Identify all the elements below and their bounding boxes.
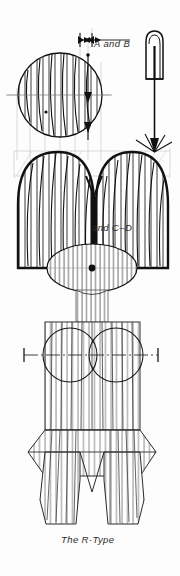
- technical-drawing-canvas: [0, 0, 180, 576]
- neck: [76, 290, 108, 322]
- body: [45, 322, 140, 430]
- annotation-c-and-d: and C–D: [92, 222, 132, 233]
- annotation-a-and-b: A and B: [94, 38, 130, 49]
- figure-root: A and B and C–D The R-Type: [0, 0, 180, 576]
- mid-ellipse: [47, 244, 137, 292]
- figure-caption: The R-Type: [61, 534, 114, 545]
